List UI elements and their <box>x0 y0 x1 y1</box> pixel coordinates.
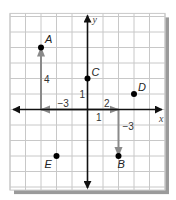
coordinate-plane: xy−342−311 ABCDE <box>0 0 176 200</box>
move-label-A-vertical: 4 <box>44 74 50 85</box>
x-axis-label: x <box>158 113 164 124</box>
point-label-A: A <box>44 33 52 45</box>
point-label-E: E <box>45 158 53 170</box>
point-label-C: C <box>92 66 100 78</box>
point-label-D: D <box>138 81 146 93</box>
point-E <box>54 153 60 159</box>
move-label-B-vertical: −3 <box>123 121 135 132</box>
point-D <box>131 91 137 97</box>
x-unit-label: 1 <box>96 112 102 123</box>
y-axis-label: y <box>92 14 98 25</box>
y-unit-label: 1 <box>80 89 86 100</box>
move-label-B-horizontal: 2 <box>104 98 110 109</box>
point-C <box>85 76 91 82</box>
grid-shadow <box>10 13 169 194</box>
point-A <box>38 45 44 51</box>
point-label-B: B <box>118 158 125 170</box>
move-label-A-horizontal: −3 <box>58 98 70 109</box>
